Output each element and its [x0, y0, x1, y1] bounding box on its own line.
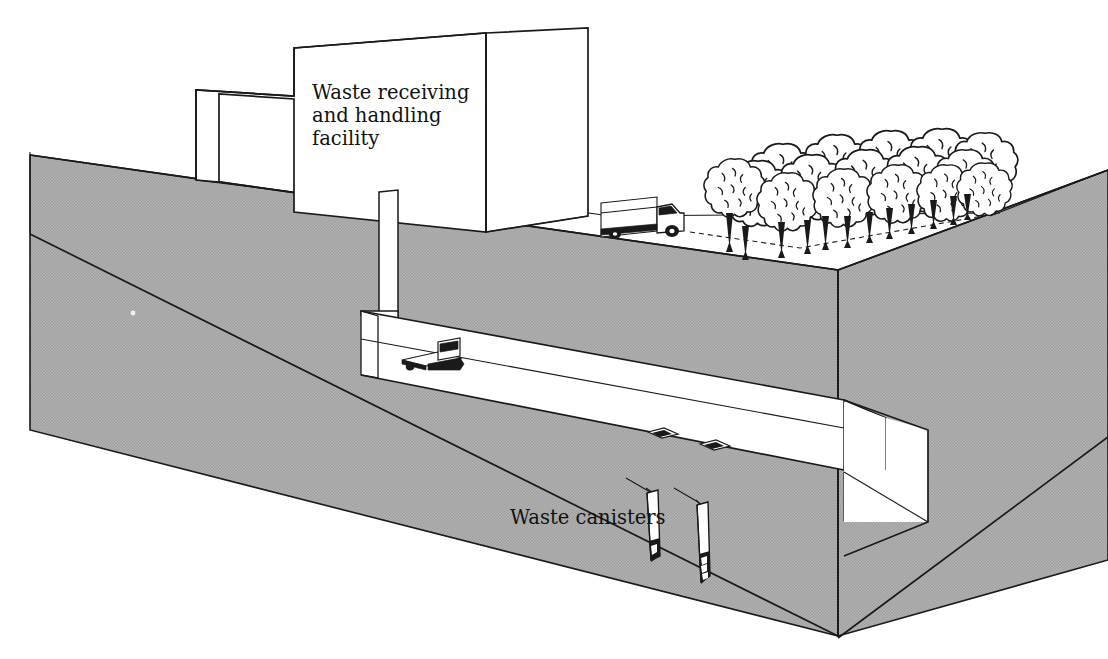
drift-left-endcap — [361, 311, 378, 378]
figure-root: Waste receiving and handling facility — [0, 0, 1108, 659]
truck-hub-front — [669, 229, 674, 233]
canisters-label: Waste canisters — [510, 506, 666, 529]
building-side-face — [486, 28, 588, 232]
scan-artifact-speck — [131, 311, 136, 316]
transporter-wheel-rear — [406, 364, 414, 371]
transporter-wheel-front — [443, 362, 453, 370]
repository-cutaway-diagram: Waste receiving and handling facility — [0, 0, 1108, 659]
truck-hub-rear — [613, 232, 617, 236]
